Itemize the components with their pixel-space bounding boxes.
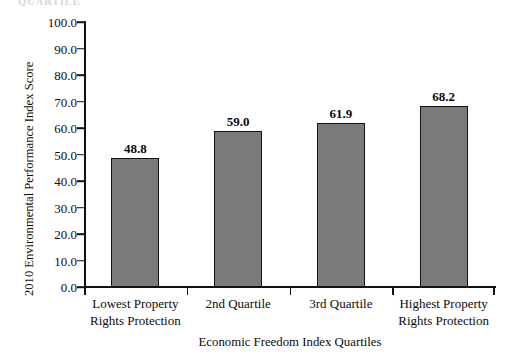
x-axis-tick-mark — [187, 287, 189, 295]
bar: 48.8 — [111, 158, 159, 287]
bar-value-label: 59.0 — [227, 115, 250, 129]
y-axis-tick-mark — [77, 180, 84, 182]
x-axis-tick-mark — [392, 287, 394, 295]
y-axis-tick-mark — [77, 233, 84, 235]
x-axis-category-label: Lowest PropertyRights Protection — [84, 296, 187, 329]
chart-figure: QUARTILE 2010 Environmental Performance … — [0, 0, 506, 358]
x-axis-category-label: 2nd Quartile — [187, 296, 290, 313]
x-axis-category-label-line: 2nd Quartile — [187, 296, 290, 313]
plot-area: 0.010.020.030.040.050.060.070.080.090.01… — [84, 22, 495, 287]
y-axis-tick-mark — [77, 207, 84, 209]
y-axis-tick-mark — [77, 154, 84, 156]
y-axis-title: 2010 Environmental Performance Index Sco… — [20, 0, 38, 296]
x-axis-title: Economic Freedom Index Quartiles — [84, 335, 496, 350]
bar: 61.9 — [317, 123, 365, 287]
y-axis-tick-mark — [77, 74, 84, 76]
x-axis-category-label: Highest PropertyRights Protection — [392, 296, 495, 329]
x-axis-category-label-line: Rights Protection — [392, 313, 495, 330]
y-axis-tick-mark — [77, 101, 84, 103]
y-axis-tick-mark — [77, 21, 84, 23]
bar-value-label: 68.2 — [432, 90, 455, 104]
x-axis-category-label-line: Rights Protection — [84, 313, 187, 330]
x-axis-category-label-line: Highest Property — [392, 296, 495, 313]
y-axis-tick-mark — [77, 48, 84, 50]
bar: 59.0 — [214, 131, 262, 287]
y-axis-tick-mark — [77, 127, 84, 129]
x-axis-category-label-line: Lowest Property — [84, 296, 187, 313]
bar: 68.2 — [420, 106, 468, 287]
bar-value-label: 61.9 — [330, 107, 353, 121]
bar-value-label: 48.8 — [124, 142, 147, 156]
x-axis-tick-mark — [290, 287, 292, 295]
x-axis-tick-mark — [84, 287, 86, 295]
y-axis-tick-mark — [77, 260, 84, 262]
x-axis-category-label: 3rd Quartile — [290, 296, 393, 313]
x-axis-category-label-line: 3rd Quartile — [290, 296, 393, 313]
x-axis-tick-mark — [493, 287, 495, 295]
y-axis-tick-mark — [77, 286, 84, 288]
